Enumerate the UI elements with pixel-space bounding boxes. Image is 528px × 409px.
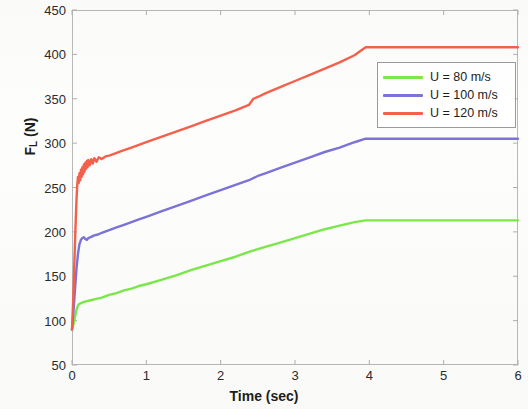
legend-label: U = 100 m/s bbox=[430, 88, 498, 102]
legend: U = 80 m/sU = 100 m/sU = 120 m/s bbox=[377, 62, 516, 128]
legend-color-swatch bbox=[383, 94, 423, 97]
y-axis-label-unit: (N) bbox=[22, 118, 38, 137]
legend-color-swatch bbox=[383, 112, 423, 115]
curve-100 bbox=[72, 139, 518, 330]
figure: 50100150200250300350400450 0123456 FL (N… bbox=[0, 0, 528, 409]
y-axis-label-base: F bbox=[22, 147, 38, 156]
legend-color-swatch bbox=[383, 76, 423, 79]
legend-label: U = 120 m/s bbox=[430, 106, 498, 120]
legend-item: U = 80 m/s bbox=[383, 68, 509, 86]
curve-80 bbox=[72, 220, 518, 329]
legend-item: U = 120 m/s bbox=[383, 104, 509, 122]
legend-item: U = 100 m/s bbox=[383, 86, 509, 104]
legend-label: U = 80 m/s bbox=[430, 70, 491, 84]
y-axis-label: FL (N) bbox=[22, 77, 39, 197]
y-axis-label-subscript: L bbox=[28, 141, 39, 147]
x-axis-label: Time (sec) bbox=[0, 388, 528, 404]
